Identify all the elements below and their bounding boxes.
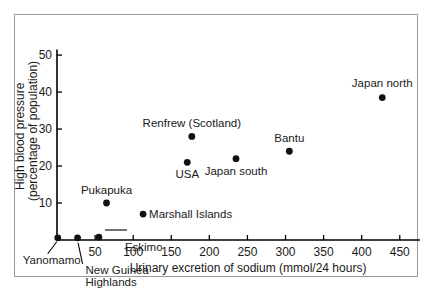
data-point-label: Japan south bbox=[205, 165, 268, 177]
x-tick-label: 250 bbox=[237, 245, 257, 259]
data-point bbox=[95, 234, 102, 241]
x-tick-label: 450 bbox=[390, 245, 410, 259]
x-tick-label: 400 bbox=[352, 245, 372, 259]
x-tick-label: 350 bbox=[314, 245, 334, 259]
data-point-label: Eskimo bbox=[125, 241, 163, 253]
y-tick-label: 30 bbox=[39, 122, 53, 136]
data-point-label: Japan north bbox=[352, 77, 413, 89]
data-point bbox=[103, 200, 110, 207]
data-point-label: USA bbox=[175, 168, 199, 180]
y-tick-label: 10 bbox=[39, 196, 53, 210]
data-point-label: Pukapuka bbox=[81, 184, 133, 196]
data-point bbox=[140, 211, 147, 218]
data-point-label: Yanomamo bbox=[23, 254, 81, 266]
data-point bbox=[233, 155, 240, 162]
data-point bbox=[286, 148, 293, 155]
data-point-label: Bantu bbox=[274, 132, 304, 144]
data-point bbox=[188, 133, 195, 140]
data-point bbox=[379, 94, 386, 101]
data-point bbox=[184, 159, 191, 166]
leader-line bbox=[48, 242, 57, 254]
data-point-label: Renfrew (Scotland) bbox=[143, 117, 242, 129]
x-axis-title: Urinary excretion of sodium (mmol/24 hou… bbox=[130, 261, 367, 275]
x-tick-label: 150 bbox=[161, 245, 181, 259]
data-point bbox=[54, 234, 61, 241]
y-tick-label: 50 bbox=[39, 48, 53, 62]
data-point-label: Marshall Islands bbox=[149, 208, 232, 220]
x-tick-label: 50 bbox=[88, 245, 102, 259]
y-axis-title: High blood pressure (percentage of popul… bbox=[13, 61, 40, 201]
figure-container: 102030405050100150200250300350400450 Yan… bbox=[0, 0, 432, 294]
scatter-plot: 102030405050100150200250300350400450 Yan… bbox=[0, 0, 432, 294]
y-axis-title-line2: (percentage of population) bbox=[26, 61, 40, 201]
y-axis-title-line1: High blood pressure bbox=[13, 82, 27, 190]
y-tick-label: 40 bbox=[39, 85, 53, 99]
x-tick-label: 300 bbox=[275, 245, 295, 259]
data-point bbox=[74, 234, 81, 241]
x-tick-label: 200 bbox=[199, 245, 219, 259]
y-tick-label: 20 bbox=[39, 159, 53, 173]
data-point-label: Highlands bbox=[86, 276, 137, 288]
